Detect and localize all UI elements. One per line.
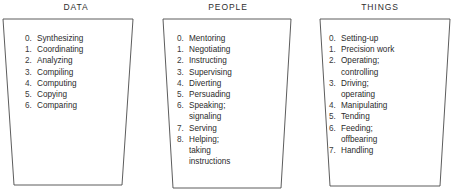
- item-list-people: 0. Mentoring 1. Negotiating 2. Instructi…: [177, 33, 301, 167]
- item-number: 6.: [329, 123, 341, 134]
- item-list-things: 0. Setting-up 1. Precision work 2. Opera…: [329, 33, 453, 156]
- list-item: 2. Instructing: [177, 55, 301, 66]
- list-item: 1. Precision work: [329, 44, 453, 55]
- item-number: 7.: [329, 145, 341, 156]
- item-label: Mentoring: [189, 33, 301, 44]
- list-item: 5. Tending: [329, 111, 453, 122]
- item-label: Compiling: [37, 67, 149, 78]
- item-list-data: 0. Synthesizing 1. Coordinating 2. Analy…: [25, 33, 149, 111]
- item-line: Serving: [189, 123, 301, 134]
- item-label: Driving; operating: [341, 78, 453, 100]
- item-line: Feeding;: [341, 123, 453, 134]
- item-number: 6.: [25, 100, 37, 111]
- list-item: 5. Copying: [25, 89, 149, 100]
- item-number: 8.: [177, 134, 189, 145]
- item-line: Operating;: [341, 55, 453, 66]
- diagram-column-things: THINGS 0. Setting-up 1. Precision work 2…: [304, 0, 456, 195]
- list-item: 1. Coordinating: [25, 44, 149, 55]
- item-label: Copying: [37, 89, 149, 100]
- list-item: 3. Driving; operating: [329, 78, 453, 100]
- item-label: Manipulating: [341, 100, 453, 111]
- item-line: Persuading: [189, 89, 301, 100]
- item-number: 0.: [329, 33, 341, 44]
- item-line: controlling: [341, 67, 453, 78]
- item-line: Analyzing: [37, 55, 149, 66]
- list-item: 4. Diverting: [177, 78, 301, 89]
- list-item: 8. Helping; taking instructions: [177, 134, 301, 168]
- item-line: Negotiating: [189, 44, 301, 55]
- item-line: Mentoring: [189, 33, 301, 44]
- list-item: 3. Compiling: [25, 67, 149, 78]
- item-number: 4.: [177, 78, 189, 89]
- item-number: 0.: [25, 33, 37, 44]
- item-number: 7.: [177, 123, 189, 134]
- item-label: Diverting: [189, 78, 301, 89]
- diagram-column-data: DATA 0. Synthesizing 1. Coordinating 2. …: [0, 0, 152, 195]
- item-line: Comparing: [37, 100, 149, 111]
- item-line: Driving;: [341, 78, 453, 89]
- item-label: Persuading: [189, 89, 301, 100]
- list-item: 2. Analyzing: [25, 55, 149, 66]
- item-label: Supervising: [189, 67, 301, 78]
- item-number: 6.: [177, 100, 189, 111]
- item-number: 5.: [177, 89, 189, 100]
- list-item: 6. Feeding; offbearing: [329, 123, 453, 145]
- item-label: Analyzing: [37, 55, 149, 66]
- item-line: signaling: [189, 111, 301, 122]
- list-item: 2. Operating; controlling: [329, 55, 453, 77]
- item-number: 1.: [177, 44, 189, 55]
- item-number: 2.: [329, 55, 341, 66]
- list-item: 4. Manipulating: [329, 100, 453, 111]
- item-number: 3.: [25, 67, 37, 78]
- list-item: 4. Computing: [25, 78, 149, 89]
- item-line: Instructing: [189, 55, 301, 66]
- item-number: 1.: [25, 44, 37, 55]
- item-line: operating: [341, 89, 453, 100]
- list-item: 6. Speaking; signaling: [177, 100, 301, 122]
- item-label: Coordinating: [37, 44, 149, 55]
- item-line: Handling: [341, 145, 453, 156]
- list-item: 3. Supervising: [177, 67, 301, 78]
- item-label: Speaking; signaling: [189, 100, 301, 122]
- item-line: Precision work: [341, 44, 453, 55]
- item-line: Copying: [37, 89, 149, 100]
- item-label: Handling: [341, 145, 453, 156]
- item-line: Speaking;: [189, 100, 301, 111]
- list-item: 0. Synthesizing: [25, 33, 149, 44]
- item-line: Manipulating: [341, 100, 453, 111]
- item-number: 4.: [25, 78, 37, 89]
- item-line: Synthesizing: [37, 33, 149, 44]
- item-label: Synthesizing: [37, 33, 149, 44]
- item-line: Supervising: [189, 67, 301, 78]
- item-line: Coordinating: [37, 44, 149, 55]
- item-number: 4.: [329, 100, 341, 111]
- list-item: 6. Comparing: [25, 100, 149, 111]
- item-number: 3.: [329, 78, 341, 89]
- item-line: offbearing: [341, 134, 453, 145]
- item-label: Computing: [37, 78, 149, 89]
- list-item: 7. Handling: [329, 145, 453, 156]
- diagram-column-people: PEOPLE 0. Mentoring 1. Negotiating 2. In…: [152, 0, 304, 195]
- item-label: Negotiating: [189, 44, 301, 55]
- item-label: Comparing: [37, 100, 149, 111]
- item-number: 5.: [25, 89, 37, 100]
- item-label: Precision work: [341, 44, 453, 55]
- item-number: 2.: [177, 55, 189, 66]
- item-line: instructions: [189, 156, 301, 167]
- list-item: 0. Setting-up: [329, 33, 453, 44]
- item-number: 1.: [329, 44, 341, 55]
- item-label: Instructing: [189, 55, 301, 66]
- item-label: Setting-up: [341, 33, 453, 44]
- worker-functions-diagram: DATA 0. Synthesizing 1. Coordinating 2. …: [0, 0, 456, 195]
- item-label: Feeding; offbearing: [341, 123, 453, 145]
- item-line: Computing: [37, 78, 149, 89]
- item-line: Tending: [341, 111, 453, 122]
- item-line: Helping;: [189, 134, 301, 145]
- item-line: Compiling: [37, 67, 149, 78]
- item-number: 5.: [329, 111, 341, 122]
- list-item: 5. Persuading: [177, 89, 301, 100]
- item-line: taking: [189, 145, 301, 156]
- item-label: Tending: [341, 111, 453, 122]
- item-number: 3.: [177, 67, 189, 78]
- list-item: 1. Negotiating: [177, 44, 301, 55]
